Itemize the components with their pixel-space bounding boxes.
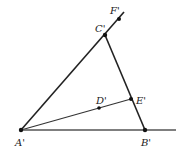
segment-a-e (21, 99, 131, 130)
label-c: C' (95, 23, 105, 34)
label-d: D' (95, 95, 107, 106)
label-f: F' (109, 5, 120, 16)
label-a: A' (14, 137, 25, 148)
point-a (19, 128, 23, 132)
label-e: E' (135, 95, 146, 106)
point-f (117, 17, 121, 21)
ray-a-c-f (21, 12, 124, 130)
label-b: B' (140, 137, 151, 148)
point-b (143, 128, 147, 132)
geometry-diagram: A' B' C' D' E' F' (0, 0, 189, 154)
segment-c-b (105, 35, 145, 130)
point-d (97, 106, 101, 110)
point-e (129, 97, 133, 101)
